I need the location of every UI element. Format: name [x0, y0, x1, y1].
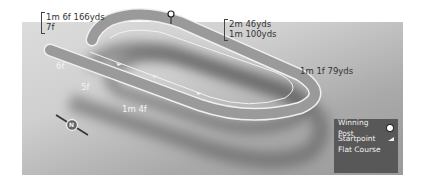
distance-label: 1m 4f: [122, 104, 147, 114]
distance-label: 6f: [56, 61, 64, 71]
distance-label: 1m 100yds: [229, 29, 276, 39]
distance-label: 1m 1f 79yds: [300, 66, 353, 76]
bracket-top-left: [41, 12, 45, 34]
winning-post-icon: [386, 124, 394, 132]
distance-label: 1m 6f 166yds: [46, 12, 105, 22]
compass-label: N: [69, 120, 74, 130]
distance-label: 2m 46yds: [229, 19, 271, 29]
legend-flat-course: Flat Course: [338, 144, 394, 155]
startpoint-icon: [388, 137, 394, 141]
distance-label: 5f: [81, 82, 89, 92]
bracket-top-right: [224, 19, 228, 41]
legend-winning-post: Winning Post: [338, 122, 394, 133]
distance-label: 7f: [46, 22, 54, 32]
legend: Winning Post Startpoint Flat Course: [334, 119, 398, 173]
